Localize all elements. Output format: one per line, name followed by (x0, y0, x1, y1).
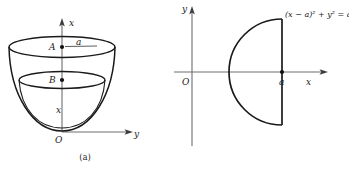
panel-a-caption: (a) (0, 152, 170, 162)
point-a-marker (280, 70, 284, 74)
tick-label-a: a (279, 77, 284, 87)
origin-label: O (55, 135, 63, 145)
axis-label-y: y (181, 4, 188, 14)
horizontal-axis-x (174, 69, 328, 75)
axis-label-x: x (306, 77, 311, 87)
point-a-label: A (48, 42, 56, 52)
radius-measure-label-a: a (76, 37, 81, 47)
semicircular-region-diagram: y x O a (x − a)² + y² = a² (170, 0, 349, 152)
point-b-marker (60, 78, 64, 82)
axis-label-x: x (69, 18, 74, 28)
point-a-marker (60, 45, 64, 49)
figure-panel-a: x y O A B a x (a) (0, 0, 170, 175)
panel-b-caption: (b) (340, 152, 349, 162)
curve-equation-label: (x − a)² + y² = a² (285, 10, 349, 19)
paraboloid-bowl-diagram: x y O A B a x (0, 0, 170, 152)
figure-panel-b: y x O a (x − a)² + y² = a² (b) (170, 0, 349, 175)
figure-sheet: x y O A B a x (a) (0, 0, 349, 175)
vertical-axis-y (189, 6, 195, 146)
origin-label: O (182, 77, 190, 87)
point-b-label: B (48, 75, 56, 85)
height-measure-label-x: x (56, 105, 61, 115)
axis-label-y: y (133, 129, 140, 139)
